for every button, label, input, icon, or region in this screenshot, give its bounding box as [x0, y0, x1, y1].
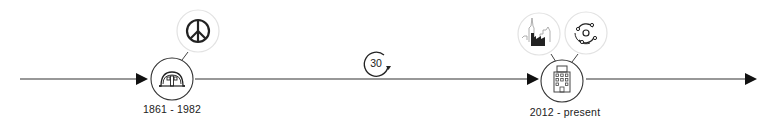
node-1-date-label: 1861 - 1982	[143, 103, 201, 115]
quonset-hut-icon	[151, 58, 193, 100]
factory-skyline-icon	[518, 13, 560, 55]
arrowhead-end-icon	[745, 73, 757, 85]
timeline-diagram: 30	[0, 0, 776, 124]
node-2-date-label: 2012 - present	[530, 106, 601, 118]
arrowhead-icon	[527, 73, 539, 85]
office-building-icon	[541, 60, 583, 102]
peace-sign-icon	[177, 10, 219, 52]
cycle-30-icon: 30	[364, 52, 391, 76]
svg-text:30: 30	[370, 57, 382, 69]
orbit-icon	[565, 12, 607, 54]
arrowhead-icon	[136, 73, 148, 85]
timeline-graphic: 30	[0, 0, 776, 124]
